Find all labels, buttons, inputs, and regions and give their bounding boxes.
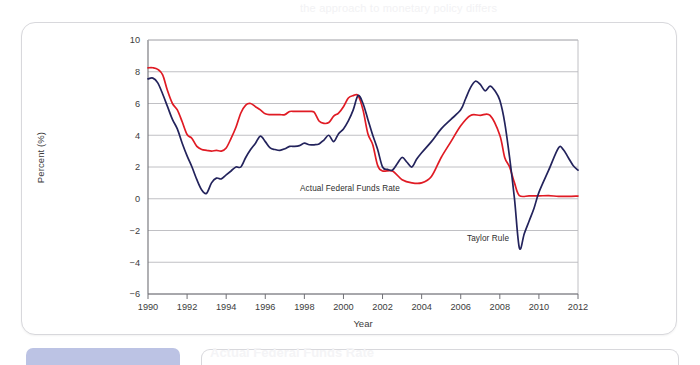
svg-text:2006: 2006 [451,302,471,312]
svg-text:2002: 2002 [372,302,392,312]
series-label-taylor-rule: Taylor Rule [467,234,509,243]
svg-text:6: 6 [135,99,140,109]
svg-text:−2: −2 [130,226,140,236]
svg-text:1998: 1998 [294,302,314,312]
svg-text:2: 2 [135,162,140,172]
x-tick-marks [148,294,578,299]
x-tick-labels: 1990199219941996199820002002200420062008… [138,302,588,312]
svg-text:−6: −6 [130,289,140,299]
ghost-bleed-bottom: Actual Federal Funds Rate [210,345,680,363]
svg-text:2008: 2008 [490,302,510,312]
svg-text:8: 8 [135,67,140,77]
caption-chip [26,348,180,365]
chart-plot-area: −6−4−20246810 19901992199419961998200020… [0,0,700,365]
y-axis-title: Percent (%) [35,98,46,218]
svg-text:2010: 2010 [529,302,549,312]
svg-text:2000: 2000 [333,302,353,312]
svg-text:4: 4 [135,131,140,141]
svg-text:2004: 2004 [411,302,431,312]
svg-text:0: 0 [135,194,140,204]
svg-text:1992: 1992 [177,302,197,312]
y-tick-labels: −6−4−20246810 [130,35,140,299]
series-label-actual-federal-funds-rate: Actual Federal Funds Rate [300,184,400,193]
gridlines [148,40,578,294]
svg-text:1996: 1996 [255,302,275,312]
svg-text:1994: 1994 [216,302,236,312]
series-lines [148,68,578,250]
svg-text:2012: 2012 [568,302,588,312]
line-chart-svg: −6−4−20246810 19901992199419961998200020… [0,0,700,365]
x-axis-title: Year [148,318,578,329]
svg-text:1990: 1990 [138,302,158,312]
svg-text:−4: −4 [130,258,140,268]
svg-text:10: 10 [130,35,140,45]
